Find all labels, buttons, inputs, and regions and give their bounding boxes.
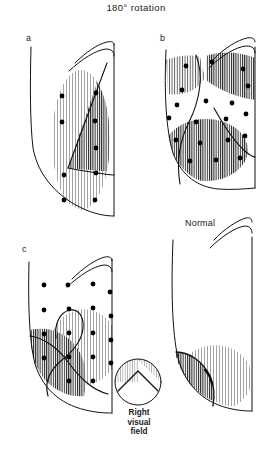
panel-c-dot — [42, 308, 47, 313]
panel-b-dot — [210, 60, 215, 65]
panel-c-dot — [109, 338, 114, 343]
panel-label-normal: Normal — [185, 218, 215, 228]
panel-b-dot — [188, 159, 193, 164]
panel-b-hatch-regions — [160, 45, 265, 200]
panel-a-dot — [93, 198, 98, 203]
inset-right-visual-field — [113, 357, 163, 405]
figure-drawing — [0, 0, 272, 449]
figure-title: 180° rotation — [0, 2, 272, 13]
panel-letter-c: c — [22, 244, 27, 254]
panel-b-dot — [204, 99, 209, 104]
panel-a-sulcus-lower — [69, 49, 114, 71]
panel-b-dot — [167, 116, 172, 121]
panel-c-dot — [91, 331, 96, 336]
panel-a-dot — [60, 94, 65, 99]
panel-a-hatch-region — [40, 60, 130, 230]
panel-c-hatch-regions — [25, 300, 130, 410]
inset-caption-right-visual-field: Right visual field — [104, 408, 174, 437]
panel-c-dot — [42, 283, 47, 288]
panel-c-dot — [67, 307, 72, 312]
figure-root: 180° rotation a b c Normal Right visual … — [0, 0, 272, 449]
panel-c-dot — [67, 379, 72, 384]
panel-c-dot — [67, 331, 72, 336]
inset-caption-line-1: Right — [104, 408, 174, 418]
panel-c-dot — [91, 355, 96, 360]
panel-c-dot — [42, 356, 47, 361]
panel-b-dot — [238, 156, 243, 161]
panel-d-normal — [170, 218, 265, 425]
panel-c-dot — [91, 306, 96, 311]
panel-d-sulcus-upper — [214, 218, 252, 240]
inset-caption-line-2: visual — [104, 418, 174, 428]
panel-c — [25, 257, 130, 413]
panel-c-dot — [91, 282, 96, 287]
panel-b-dot — [175, 103, 180, 108]
panel-c-dot — [109, 361, 114, 366]
panel-a-dot — [60, 120, 65, 125]
panel-b-dot — [244, 112, 249, 117]
panel-c-sulcus-upper — [72, 257, 112, 279]
panel-b-dot — [198, 141, 203, 146]
panel-b-dot — [226, 138, 231, 143]
panel-b-dot — [246, 84, 251, 89]
panel-b-dot — [184, 64, 189, 69]
panel-b-dot — [180, 88, 185, 93]
panel-a-dot — [94, 91, 99, 96]
panel-letter-b: b — [160, 33, 165, 43]
panel-c-sulcus-lower — [67, 265, 112, 287]
panel-c-dot — [42, 332, 47, 337]
panel-c-dot — [108, 290, 113, 295]
panel-c-dot — [109, 314, 114, 319]
panel-b-dot — [243, 134, 248, 139]
panel-c-dot — [66, 283, 71, 288]
panel-b-dot — [174, 138, 179, 143]
panel-b — [160, 38, 265, 200]
panel-b-dot — [241, 67, 246, 72]
panel-b-dot — [214, 158, 219, 163]
panel-d-hatch-regions — [170, 335, 265, 425]
panel-a-dot — [94, 146, 99, 151]
panel-b-dot — [230, 101, 235, 106]
panel-a — [30, 42, 130, 230]
panel-b-dot — [224, 117, 229, 122]
panel-a-dot — [93, 119, 98, 124]
panel-b-dot — [194, 120, 199, 125]
inset-caption-line-3: field — [104, 427, 174, 437]
panel-a-dot — [62, 198, 67, 203]
panel-c-dot — [67, 355, 72, 360]
panel-letter-a: a — [26, 33, 31, 43]
panel-a-dot — [94, 171, 99, 176]
panel-c-dot — [91, 379, 96, 384]
panel-a-dot — [62, 173, 67, 178]
